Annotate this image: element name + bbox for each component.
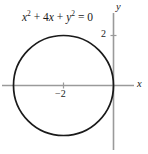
equation-plus-2: +: [54, 11, 66, 23]
equation-equals-sign: =: [75, 11, 87, 23]
equation-right-hand-side: 0: [87, 11, 93, 23]
axes-group: [2, 13, 134, 150]
equation-annotation: x2 + 4x + y2 = 0: [22, 12, 93, 24]
x-axis-label: x: [137, 79, 142, 90]
x-tick-label-minus-2: −2: [55, 89, 66, 99]
equation-plus-1: +: [31, 11, 43, 23]
y-axis-label: y: [116, 2, 121, 13]
y-tick-label-2: 2: [101, 29, 106, 39]
graph-figure: x2 + 4x + y2 = 0 y x 2 −2: [0, 0, 148, 154]
